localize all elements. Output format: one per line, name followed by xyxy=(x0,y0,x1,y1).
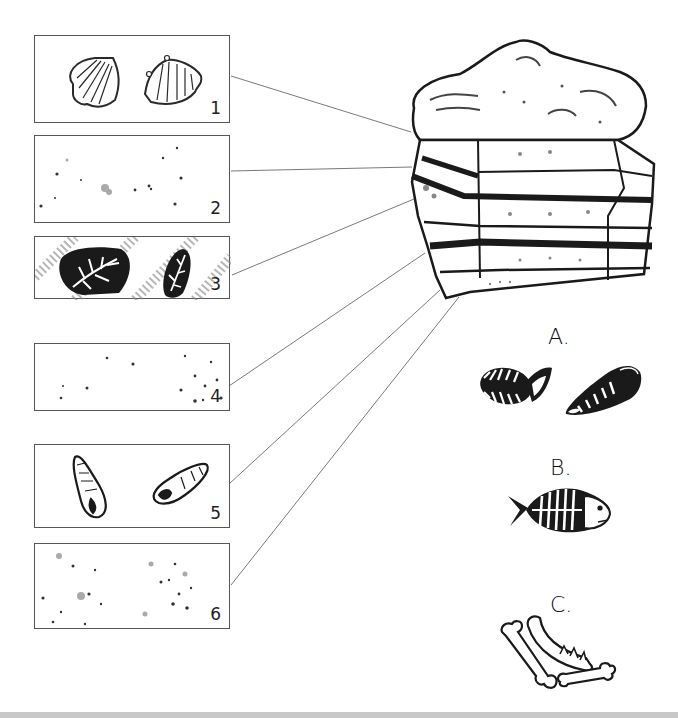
connector-line-3 xyxy=(232,199,414,275)
bones-jawbone-icon xyxy=(496,612,620,690)
trilobite-fossils-icon xyxy=(468,352,648,424)
fish-skeleton-icon xyxy=(506,482,616,538)
scallop-shells-icon xyxy=(35,36,231,124)
option-a-label: A. xyxy=(548,324,570,349)
panel-3: 3 xyxy=(34,236,230,299)
connector-line-6 xyxy=(231,297,459,585)
panel-number: 1 xyxy=(210,98,221,118)
panel-number: 6 xyxy=(210,604,221,624)
layered-rock-icon xyxy=(400,36,670,311)
option-b-label: B. xyxy=(550,455,571,480)
connector-line-2 xyxy=(231,167,412,171)
panel-6: 6 xyxy=(34,543,230,629)
plant-fossil-rocks-icon xyxy=(35,237,231,300)
snail-shells-icon xyxy=(35,445,231,529)
bottom-scan-strip xyxy=(0,712,678,718)
panel-number: 5 xyxy=(210,503,221,523)
panel-2: 2 xyxy=(34,135,230,223)
sediment-specks-icon xyxy=(35,136,231,224)
panel-5: 5 xyxy=(34,444,230,528)
connector-line-4 xyxy=(229,253,425,386)
panel-number: 4 xyxy=(210,386,221,406)
panel-4: 4 xyxy=(34,343,230,411)
panel-1: 1 xyxy=(34,35,230,123)
panel-number: 2 xyxy=(210,198,221,218)
connector-line-1 xyxy=(231,76,411,132)
sediment-specks-icon xyxy=(35,344,231,412)
sediment-specks-icon xyxy=(35,544,231,630)
panel-number: 3 xyxy=(210,274,221,294)
